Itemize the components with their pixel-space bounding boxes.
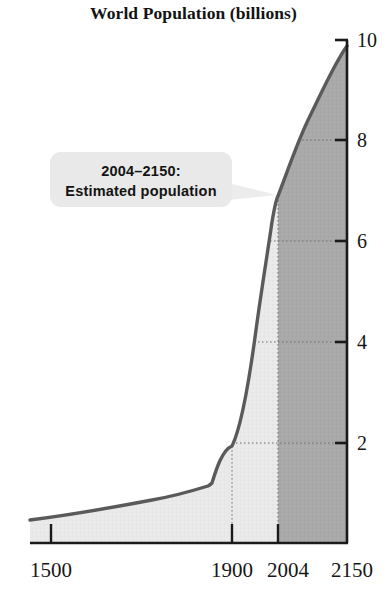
- y-tick-label-4: 4: [357, 331, 367, 353]
- y-tick-label-10: 10: [357, 29, 377, 51]
- y-tick-label-6: 6: [357, 230, 367, 252]
- callout-pointer-icon: [228, 183, 277, 200]
- x-tick-label-1900: 1900: [211, 558, 253, 582]
- area-historical: [30, 196, 278, 544]
- x-tick-label-2004: 2004: [267, 558, 310, 582]
- y-tick-label-8: 8: [357, 129, 367, 151]
- world-population-chart: World Population (billions): [0, 0, 387, 598]
- x-tick-label-2150: 2150: [331, 558, 373, 582]
- x-tick-label-1500: 1500: [30, 558, 72, 582]
- callout-line-1: 2004–2150:: [101, 163, 180, 179]
- y-tick-label-2: 2: [357, 432, 367, 454]
- callout-line-2: Estimated population: [65, 183, 216, 199]
- chart-plot-area: 10 8 6 4 2 1500 1900 2004 2150 2004–2150…: [0, 0, 387, 598]
